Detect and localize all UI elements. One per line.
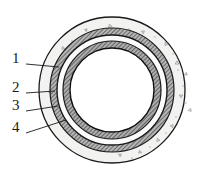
callout-number-1: 1 <box>12 50 20 66</box>
callout-number-3: 3 <box>12 97 20 113</box>
aggregate-mark <box>184 72 187 75</box>
callout-labels: 1234 <box>12 50 20 135</box>
speckle-dot <box>154 36 155 37</box>
speckle-dot <box>182 85 183 86</box>
cross-section-drawing: 1234 <box>0 0 207 180</box>
speckle-dot <box>175 116 176 117</box>
speckle-dot <box>128 28 129 29</box>
speckle-dot <box>165 132 166 133</box>
speckle-dot <box>177 69 178 70</box>
speckle-dot <box>172 53 173 54</box>
inner-bore <box>70 48 154 132</box>
speckle-dot <box>185 102 186 103</box>
aggregate-mark <box>188 108 191 111</box>
callout-number-4: 4 <box>12 119 20 135</box>
speckle-dot <box>149 146 150 147</box>
callout-number-2: 2 <box>12 79 20 95</box>
cross-section-figure: 1234 <box>0 0 207 180</box>
speckle-dot <box>131 157 132 158</box>
